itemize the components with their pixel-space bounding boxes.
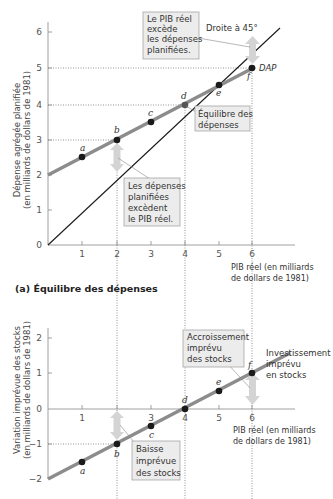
y-tick-4: 4 xyxy=(36,100,42,110)
y-axis-label-line1: Variation imprévue des stocks xyxy=(12,325,22,454)
label-a: a xyxy=(80,143,85,153)
label-b: b xyxy=(114,449,120,459)
y-tick-3: 3 xyxy=(36,135,42,145)
point-a xyxy=(79,459,86,466)
y-tick-1: 1 xyxy=(36,205,42,215)
point-d xyxy=(182,406,189,413)
svg-text:le PIB réel.: le PIB réel. xyxy=(128,214,173,224)
x-tick-3: 3 xyxy=(148,413,154,423)
arrow-excess-spending xyxy=(110,143,124,172)
svg-text:les dépenses: les dépenses xyxy=(147,34,203,44)
svg-text:dépenses: dépenses xyxy=(198,120,239,130)
svg-text:Le PIB réel: Le PIB réel xyxy=(147,14,192,24)
annotation-equilibrium: Équilibre des dépenses xyxy=(186,106,253,131)
label-c: c xyxy=(149,430,154,440)
x-axis-label-line2: de dollars de 1981) xyxy=(233,437,311,446)
x-tick-3: 3 xyxy=(148,249,154,259)
y-tick-0: 0 xyxy=(36,240,42,250)
svg-text:planifiées: planifiées xyxy=(128,192,170,202)
x-ticks: 1 2 3 4 5 6 xyxy=(79,241,255,259)
x-axis-label-line1: PIB réel (en milliards xyxy=(233,425,316,435)
x-tick-1: 1 xyxy=(79,413,85,423)
point-f xyxy=(249,370,256,377)
label-b: b xyxy=(114,125,120,135)
svg-text:Les dépenses: Les dépenses xyxy=(128,181,186,191)
y-tick-2: 2 xyxy=(36,170,42,180)
svg-text:imprévue: imprévue xyxy=(136,456,176,466)
svg-text:en stocks: en stocks xyxy=(266,370,307,380)
label-d: d xyxy=(182,395,188,405)
label-a: a xyxy=(80,466,85,476)
y-ticks: 2 1 0 −1 −2 xyxy=(29,333,52,484)
chart-title: (a) Équilibre des dépenses xyxy=(15,283,158,294)
label-c: c xyxy=(148,108,153,118)
svg-text:imprévu: imprévu xyxy=(187,343,222,353)
point-c xyxy=(148,423,155,430)
annotation-gdp-exceeds: Le PIB réel excède les dépenses planifié… xyxy=(143,12,250,59)
y-tick-minus2: −2 xyxy=(29,474,42,484)
figure: Dépense agrégée planifiée (en milliards … xyxy=(0,0,333,499)
y-tick-0: 0 xyxy=(36,404,42,414)
svg-text:imprévu: imprévu xyxy=(266,359,301,369)
x-axis-label-line1: PIB réel (en milliards xyxy=(231,262,314,272)
point-b xyxy=(114,137,121,144)
arrow-stock-decrease xyxy=(110,411,124,440)
y-tick-minus1: −1 xyxy=(29,439,42,449)
y-tick-1: 1 xyxy=(36,368,42,378)
point-b xyxy=(114,441,121,448)
label-e: e xyxy=(216,377,221,387)
point-e xyxy=(216,388,223,395)
svg-text:excèdent: excèdent xyxy=(128,203,168,213)
svg-text:Équilibre des: Équilibre des xyxy=(198,108,253,119)
x-tick-1: 1 xyxy=(79,249,85,259)
point-d xyxy=(182,102,189,109)
svg-text:excède: excède xyxy=(147,24,178,34)
arrow-excess-gdp xyxy=(245,36,260,64)
svg-text:Accroissement: Accroissement xyxy=(187,332,250,342)
line45-label: Droite à 45° xyxy=(206,23,258,33)
x-tick-6: 6 xyxy=(249,413,255,423)
point-c xyxy=(148,119,155,126)
chart-bottom: Variation imprévue des stocks (en millia… xyxy=(12,321,331,484)
annotation-spending-exceeds: Les dépenses planifiées excèdent le PIB … xyxy=(118,158,186,226)
y-axis-label-line2: (en milliards de dollars de 1981) xyxy=(22,71,32,209)
y-tick-6: 6 xyxy=(36,27,42,37)
svg-text:planifiées.: planifiées. xyxy=(147,45,191,55)
label-d: d xyxy=(181,91,187,101)
x-axis-label-line2: de dollars de 1981) xyxy=(231,274,309,283)
x-tick-5: 5 xyxy=(216,413,222,423)
inventory-series-label: Investissement imprévu en stocks xyxy=(266,348,331,380)
arrow-stock-increase xyxy=(245,373,260,405)
x-ticks: 1 2 3 4 5 6 xyxy=(79,405,255,423)
dap-label: DAP xyxy=(259,63,277,73)
svg-text:des stocks: des stocks xyxy=(187,354,232,364)
svg-text:Investissement: Investissement xyxy=(266,348,331,358)
y-tick-2: 2 xyxy=(36,333,42,343)
x-tick-4: 4 xyxy=(182,413,188,423)
svg-text:des stocks: des stocks xyxy=(136,468,181,478)
x-tick-5: 5 xyxy=(216,249,222,259)
y-axis-label-line1: Dépense agrégée planifiée xyxy=(12,83,22,197)
label-e: e xyxy=(216,88,221,98)
point-a xyxy=(79,154,86,161)
label-f: f xyxy=(246,71,252,81)
svg-text:Baisse: Baisse xyxy=(136,444,164,454)
y-ticks: 0 1 2 3 4 5 6 xyxy=(36,27,52,250)
y-tick-5: 5 xyxy=(36,63,42,73)
